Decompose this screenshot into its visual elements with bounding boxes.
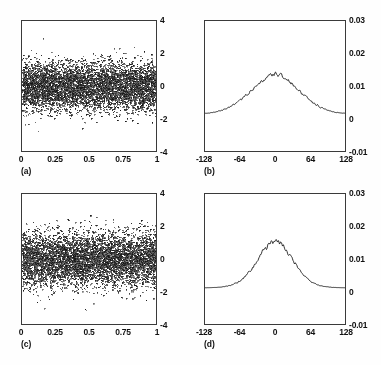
xtick-label-a-0: 0 xyxy=(19,155,24,164)
plot-frame-b xyxy=(204,20,346,152)
ytick-label-b-0: 0.03 xyxy=(349,16,365,25)
xtick-label-a-4: 1 xyxy=(155,155,160,164)
xtick-label-c-2: 0.5 xyxy=(83,328,94,337)
ytick-label-d-3: 0 xyxy=(349,288,354,297)
ytick-label-a-0: 4 xyxy=(160,16,165,25)
plot-frame-a xyxy=(21,20,157,152)
panel-caption-a: (a) xyxy=(21,167,31,176)
ytick-label-c-1: 2 xyxy=(160,222,165,231)
ytick-label-d-0: 0.03 xyxy=(349,189,365,198)
panel-d: -128-640641280.030.020.010-0.01(d) xyxy=(204,193,346,325)
ytick-label-d-2: 0.01 xyxy=(349,255,365,264)
panel-caption-c: (c) xyxy=(21,340,31,349)
ytick-label-a-4: -4 xyxy=(160,148,167,157)
plot-frame-d xyxy=(204,193,346,325)
plot-frame-c xyxy=(21,193,157,325)
panel-a: 00.250.50.751420-2-4(a) xyxy=(21,20,157,152)
scatter-canvas-c xyxy=(22,194,156,324)
ytick-label-b-1: 0.02 xyxy=(349,49,365,58)
ytick-label-b-4: -0.01 xyxy=(349,148,367,157)
xtick-label-d-1: -64 xyxy=(234,328,246,337)
xtick-label-d-4: 128 xyxy=(339,328,353,337)
xtick-label-b-1: -64 xyxy=(234,155,246,164)
xtick-label-c-3: 0.75 xyxy=(115,328,131,337)
ytick-label-a-2: 0 xyxy=(160,82,165,91)
xtick-label-b-2: 0 xyxy=(273,155,278,164)
scatter-canvas-a xyxy=(22,21,156,151)
line-canvas-d xyxy=(205,194,345,324)
ytick-label-b-3: 0 xyxy=(349,115,354,124)
panel-c: 00.250.50.751420-2-4(c) xyxy=(21,193,157,325)
xtick-label-d-0: -128 xyxy=(196,328,212,337)
panel-b: -128-640641280.030.020.010-0.01(b) xyxy=(204,20,346,152)
xtick-label-b-4: 128 xyxy=(339,155,353,164)
ytick-label-a-1: 2 xyxy=(160,49,165,58)
panel-caption-d: (d) xyxy=(204,340,215,349)
xtick-label-d-3: 64 xyxy=(306,328,315,337)
xtick-label-d-2: 0 xyxy=(273,328,278,337)
xtick-label-a-3: 0.75 xyxy=(115,155,131,164)
ytick-label-d-4: -0.01 xyxy=(349,321,367,330)
ytick-label-b-2: 0.01 xyxy=(349,82,365,91)
ytick-label-c-4: -4 xyxy=(160,321,167,330)
ytick-label-c-3: -2 xyxy=(160,288,167,297)
xtick-label-a-1: 0.25 xyxy=(47,155,63,164)
line-canvas-b xyxy=(205,21,345,151)
panel-caption-b: (b) xyxy=(204,167,215,176)
figure-container: 00.250.50.751420-2-4(a) -128-640641280.0… xyxy=(0,0,381,365)
xtick-label-c-1: 0.25 xyxy=(47,328,63,337)
xtick-label-b-0: -128 xyxy=(196,155,212,164)
ytick-label-a-3: -2 xyxy=(160,115,167,124)
ytick-label-c-2: 0 xyxy=(160,255,165,264)
xtick-label-b-3: 64 xyxy=(306,155,315,164)
xtick-label-a-2: 0.5 xyxy=(83,155,94,164)
ytick-label-d-1: 0.02 xyxy=(349,222,365,231)
xtick-label-c-4: 1 xyxy=(155,328,160,337)
xtick-label-c-0: 0 xyxy=(19,328,24,337)
ytick-label-c-0: 4 xyxy=(160,189,165,198)
